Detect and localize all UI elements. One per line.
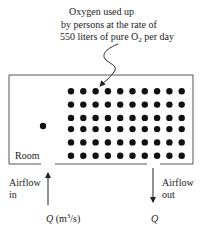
person-dot (117, 88, 123, 94)
person-dot (142, 115, 148, 121)
annotation-line-1: Oxygen used up (69, 6, 134, 17)
person-dot (142, 88, 148, 94)
airflow-in-label-1: Airflow (9, 177, 41, 188)
person-dot (129, 88, 135, 94)
person-dot (105, 101, 111, 107)
person-dot (179, 126, 185, 132)
person-dot (105, 126, 111, 132)
annotation-line-3-pre: 550 liters of pure O (60, 31, 138, 42)
person-dot (80, 139, 86, 145)
person-dot (117, 139, 123, 145)
annotation-line-3-post: per day (142, 31, 174, 42)
person-dot (179, 88, 185, 94)
person-dot (166, 153, 172, 159)
person-dot (166, 88, 172, 94)
pointer-arrow (100, 44, 118, 86)
person-dot (154, 153, 160, 159)
person-dot (117, 101, 123, 107)
person-dot (68, 115, 74, 121)
person-dot (142, 153, 148, 159)
person-dot (92, 126, 98, 132)
person-dot-single (40, 123, 46, 129)
person-dot (105, 153, 111, 159)
outflow-q-label: Q (151, 213, 159, 224)
person-dot (179, 153, 185, 159)
person-grid (68, 88, 185, 159)
inflow-rate-label: Q (m3/s) (46, 212, 80, 225)
person-dot (80, 101, 86, 107)
person-dot (80, 153, 86, 159)
person-dot (129, 101, 135, 107)
person-dot (129, 126, 135, 132)
person-dot (142, 139, 148, 145)
person-dot (105, 88, 111, 94)
person-dot (154, 139, 160, 145)
person-dot (105, 139, 111, 145)
person-dot (117, 126, 123, 132)
person-dot (179, 115, 185, 121)
person-dot (117, 115, 123, 121)
inflow-unit-post: /s) (70, 213, 80, 225)
person-dot (105, 115, 111, 121)
person-dot (166, 115, 172, 121)
person-dot (166, 101, 172, 107)
person-dot (154, 126, 160, 132)
person-dot (179, 139, 185, 145)
person-dot (129, 153, 135, 159)
person-dot (80, 88, 86, 94)
person-dot (154, 88, 160, 94)
person-dot (117, 153, 123, 159)
annotation-line-3: 550 liters of pure O2 per day (60, 31, 174, 44)
person-dot (166, 126, 172, 132)
person-dot (154, 101, 160, 107)
inflow-unit-pre: (m (53, 213, 67, 225)
person-dot (68, 88, 74, 94)
person-dot (92, 139, 98, 145)
annotation-line-2: by persons at the rate of (61, 19, 157, 30)
person-dot (80, 115, 86, 121)
person-dot (68, 101, 74, 107)
person-dot (68, 139, 74, 145)
person-dot (142, 126, 148, 132)
person-dot (166, 139, 172, 145)
person-dot (179, 101, 185, 107)
airflow-out-label-1: Airflow (162, 177, 194, 188)
room-label: Room (15, 150, 40, 161)
person-dot (142, 101, 148, 107)
person-dot (92, 115, 98, 121)
airflow-in-label-2: in (9, 189, 17, 200)
person-dot (129, 115, 135, 121)
person-dot (92, 101, 98, 107)
person-dot (154, 115, 160, 121)
airflow-out-label-2: out (162, 189, 175, 200)
person-dot (92, 153, 98, 159)
person-dot (129, 139, 135, 145)
person-dot (68, 153, 74, 159)
person-dot (92, 88, 98, 94)
room-oxygen-diagram: Oxygen used up by persons at the rate of… (0, 0, 206, 234)
person-dot (80, 126, 86, 132)
person-dot (68, 126, 74, 132)
